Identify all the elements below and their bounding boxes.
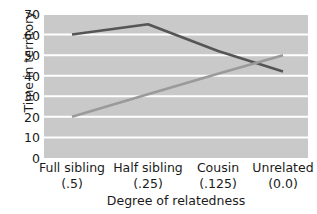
x-tick-label-unrelated: Unrelated (0.0): [238, 160, 317, 192]
chart-figure: Time in territory 70 60 50 40 30 20 10 0…: [0, 0, 317, 214]
y-tick-label: 50: [16, 48, 40, 63]
chart-canvas: [44, 14, 308, 158]
y-tick-label: 60: [16, 28, 40, 43]
y-tick-label: 30: [16, 89, 40, 104]
y-tick-label: 10: [16, 130, 40, 145]
series-line-light-line: [72, 55, 283, 117]
y-tick-label: 20: [16, 110, 40, 125]
x-axis-title: Degree of relatedness: [44, 193, 308, 208]
data-series: [72, 24, 283, 117]
y-tick-label: 40: [16, 69, 40, 84]
plot-area: [44, 14, 308, 158]
x-axis-tick-labels: Full sibling (.5) Half sibling (.25) Cou…: [44, 160, 308, 194]
y-tick-label: 70: [16, 7, 40, 22]
